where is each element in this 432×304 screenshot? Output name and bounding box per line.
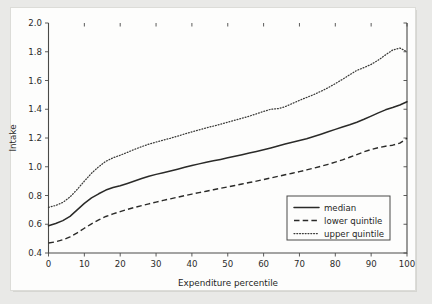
y-tick-label: 1.0 <box>28 162 42 172</box>
chart-area: 0.40.60.81.01.21.41.61.82.0 010203040506… <box>0 0 432 304</box>
x-tick-label: 40 <box>186 259 197 269</box>
x-tick-label: 90 <box>366 259 377 269</box>
y-tick-label: 2.0 <box>28 18 42 28</box>
legend-label: upper quintile <box>324 229 384 239</box>
x-tick-label: 80 <box>330 259 341 269</box>
y-tick-label: 0.6 <box>28 219 42 229</box>
y-tick-label: 1.8 <box>28 47 42 57</box>
chart-legend: medianlower quintileupper quintile <box>287 196 390 240</box>
y-tick-label: 0.4 <box>28 248 42 258</box>
x-tick-label: 50 <box>222 259 233 269</box>
x-tick-label: 100 <box>399 259 415 269</box>
x-axis-title: Expenditure percentile <box>178 278 278 288</box>
legend-label: lower quintile <box>324 216 382 226</box>
x-tick-label: 30 <box>151 259 162 269</box>
x-tick-label: 60 <box>258 259 269 269</box>
y-tick-label: 0.8 <box>28 191 42 201</box>
intake-expenditure-line-chart: 0.40.60.81.01.21.41.61.82.0 010203040506… <box>0 0 432 304</box>
y-axis-title: Intake <box>8 124 18 151</box>
x-tick-label: 70 <box>294 259 305 269</box>
y-tick-label: 1.6 <box>28 76 42 86</box>
series-line-upper-quintile <box>49 48 408 207</box>
x-tick-label: 20 <box>115 259 126 269</box>
legend-label: median <box>324 203 356 213</box>
y-tick-label: 1.4 <box>28 104 42 114</box>
x-tick-label: 10 <box>79 259 90 269</box>
figure-page: 0.40.60.81.01.21.41.61.82.0 010203040506… <box>0 0 432 304</box>
x-tick-label: 0 <box>46 259 51 269</box>
y-tick-label: 1.2 <box>28 133 42 143</box>
